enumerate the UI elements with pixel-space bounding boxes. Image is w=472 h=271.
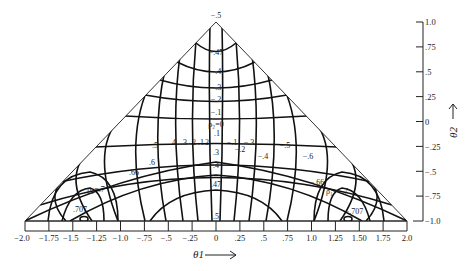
x-axis-arrow (205, 251, 236, 259)
svg-text:.75: .75 (425, 42, 436, 52)
contour-label: −.6 (303, 152, 314, 161)
contour-label: −.3 (244, 138, 255, 147)
contour-label: .4 (170, 138, 176, 147)
contour-label: −.5 (280, 141, 291, 150)
svg-text:−2.0: −2.0 (14, 233, 29, 243)
svg-text:−.5: −.5 (161, 233, 172, 243)
svg-text:−.25: −.25 (425, 142, 440, 152)
contour-label: .4 (213, 161, 219, 170)
contour-label: .1 (198, 138, 204, 147)
svg-text:.25: .25 (425, 92, 436, 102)
contour-rho1-03 (158, 70, 166, 221)
contour-label: ρ₁=−.7 (326, 187, 348, 196)
contour-rho1-01 (192, 40, 198, 221)
contour-label: .3 (181, 138, 187, 147)
contour-label: −.4 (211, 67, 222, 76)
apex-label: −.5 (211, 11, 222, 20)
y-axis (413, 22, 423, 221)
contour-label: .5 (152, 141, 158, 150)
svg-text:−.5: −.5 (425, 167, 436, 177)
svg-text:.25: .25 (235, 233, 246, 243)
contour-label: .5 (213, 212, 219, 221)
contour-label: .3 (213, 148, 219, 157)
contour-label: ρ₁=.7 (87, 185, 104, 194)
contour-label: .2 (190, 138, 196, 147)
contour-rho1-m03 (266, 70, 274, 221)
contour-label: .707 (73, 205, 87, 214)
svg-text:2.0: 2.0 (402, 233, 413, 243)
svg-text:.5: .5 (261, 233, 267, 243)
svg-text:−1.5: −1.5 (63, 233, 78, 243)
contour-label: −.1 (211, 108, 222, 117)
svg-text:0: 0 (214, 233, 218, 243)
y-axis-label: θ2 (447, 127, 459, 138)
svg-text:1.75: 1.75 (376, 233, 391, 243)
y-axis-arrow (449, 104, 457, 119)
svg-text:0: 0 (425, 117, 429, 127)
contour-label: −.707 (345, 207, 364, 216)
contour-label: −.47 (209, 48, 224, 57)
svg-text:1.25: 1.25 (328, 233, 343, 243)
svg-text:.5: .5 (425, 67, 431, 77)
svg-text:.75: .75 (282, 233, 293, 243)
contour-label: .66 (129, 168, 139, 177)
contour-label: .6 (149, 158, 155, 167)
svg-text:−1.75: −1.75 (39, 233, 59, 243)
svg-text:−1.0: −1.0 (113, 233, 128, 243)
contour-rho2-0 (95, 144, 337, 148)
svg-text:1.0: 1.0 (306, 233, 317, 243)
x-axis (25, 221, 407, 231)
contour-label-rho2-zero: ρ₂=0 (208, 120, 223, 129)
contour-label: −.4 (258, 152, 269, 161)
contour-label: −.66 (310, 178, 325, 187)
y-axis-ticks: 1.0 .75 .5 .25 0 −.25 −.5 −.75 −1.0 (425, 17, 440, 226)
contour-label: .1 (214, 129, 220, 138)
contour-rho1-m01 (234, 40, 240, 221)
x-axis-ticks: −2.0 −1.75 −1.5 −1.25 −1.0 −.75 −.5 −.25… (14, 233, 412, 243)
svg-text:−1.0: −1.0 (425, 216, 440, 226)
x-axis-label: θ1 (193, 248, 204, 260)
contour-label: −.3 (211, 83, 222, 92)
contour-rho1-04 (136, 88, 148, 221)
svg-text:−.75: −.75 (137, 233, 152, 243)
contour-label: .47 (211, 180, 221, 189)
svg-text:−1.25: −1.25 (87, 233, 107, 243)
contour-label: −.2 (211, 95, 222, 104)
svg-text:1.0: 1.0 (425, 17, 436, 27)
contour-rho1-m04 (284, 88, 296, 221)
svg-text:−.75: −.75 (425, 191, 440, 201)
svg-text:−.25: −.25 (182, 233, 197, 243)
svg-text:1.50: 1.50 (352, 233, 367, 243)
contour-diagram: −.5 −.47 −.4 −.3 −.2 −.1 ρ₂=0 .1 .2 .3 .… (0, 0, 472, 271)
